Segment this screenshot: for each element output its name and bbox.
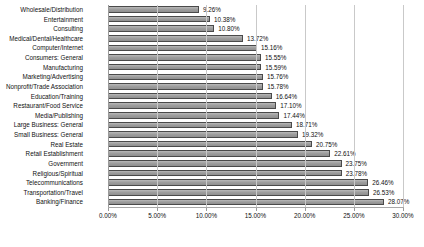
- category-label: Marketing/Advertising: [0, 72, 83, 82]
- bar: [108, 131, 298, 138]
- gridline-30.00%: [403, 5, 404, 207]
- x-tick-mark: [403, 208, 404, 211]
- category-label: Consulting: [0, 24, 83, 34]
- x-tick-mark: [305, 208, 306, 211]
- value-label: 15.55%: [265, 53, 286, 63]
- gridline-10.00%: [206, 5, 207, 207]
- bar: [108, 83, 263, 90]
- value-label: 16.64%: [276, 92, 297, 102]
- bar: [108, 54, 261, 61]
- bar: [108, 93, 272, 100]
- category-label: Entertainment: [0, 15, 83, 25]
- bar: [108, 122, 292, 129]
- category-label: Transportation/Travel: [0, 188, 83, 198]
- value-label: 15.78%: [267, 82, 288, 92]
- x-tick-mark: [108, 208, 109, 211]
- bar: [108, 141, 312, 148]
- value-label: 26.53%: [373, 188, 394, 198]
- x-tick-mark: [354, 208, 355, 211]
- x-tick-label: 30.00%: [392, 212, 413, 219]
- x-tick-label: 15.00%: [245, 212, 266, 219]
- bar-chart: Wholesale/Distribution9.26%Entertainment…: [0, 0, 424, 247]
- bar: [108, 6, 199, 13]
- value-label: 26.46%: [372, 178, 393, 188]
- bar: [108, 64, 261, 71]
- value-label: 10.38%: [214, 15, 235, 25]
- category-label: Media/Publishing: [0, 111, 83, 121]
- gridline-20.00%: [305, 5, 306, 207]
- category-label: Telecommunications: [0, 178, 83, 188]
- value-label: 18.71%: [296, 120, 317, 130]
- value-label: 15.76%: [267, 72, 288, 82]
- value-label: 20.75%: [316, 140, 337, 150]
- x-tick-mark: [157, 208, 158, 211]
- value-label: 23.78%: [346, 169, 367, 179]
- bar: [108, 179, 368, 186]
- bar: [108, 45, 257, 52]
- category-label: Medical/Dental/Healthcare: [0, 34, 83, 44]
- gridline-25.00%: [354, 5, 355, 207]
- category-label: Real Estate: [0, 140, 83, 150]
- bar: [108, 35, 243, 42]
- value-label: 22.61%: [334, 149, 355, 159]
- x-tick-label: 20.00%: [294, 212, 315, 219]
- x-tick-mark: [206, 208, 207, 211]
- x-tick-label: 25.00%: [343, 212, 364, 219]
- value-label: 10.80%: [218, 24, 239, 34]
- bar: [108, 199, 384, 206]
- value-label: 13.72%: [247, 34, 268, 44]
- category-label: Government: [0, 159, 83, 169]
- category-label: Large Business: General: [0, 120, 83, 130]
- category-label: Small Business: General: [0, 130, 83, 140]
- category-label: Banking/Finance: [0, 197, 83, 207]
- x-tick-label: 5.00%: [148, 212, 166, 219]
- bar: [108, 170, 342, 177]
- value-label: 28.07%: [388, 197, 409, 207]
- gridline-0.00%: [108, 5, 109, 207]
- bar: [108, 160, 342, 167]
- category-label: Nonprofit/Trade Association: [0, 82, 83, 92]
- bar: [108, 102, 276, 109]
- value-label: 23.75%: [346, 159, 367, 169]
- gridline-5.00%: [157, 5, 158, 207]
- x-tick-mark: [256, 208, 257, 211]
- bar: [108, 16, 210, 23]
- category-label: Retail Establishment: [0, 149, 83, 159]
- bar: [108, 74, 263, 81]
- category-label: Religious/Spiritual: [0, 169, 83, 179]
- bar: [108, 150, 330, 157]
- bar: [108, 112, 279, 119]
- category-label: Education/Training: [0, 92, 83, 102]
- x-tick-label: 0.00%: [99, 212, 117, 219]
- bar: [108, 25, 214, 32]
- category-label: Manufacturing: [0, 63, 83, 73]
- value-label: 17.10%: [280, 101, 301, 111]
- bar: [108, 189, 369, 196]
- category-label: Wholesale/Distribution: [0, 5, 83, 15]
- category-label: Consumers: General: [0, 53, 83, 63]
- value-label: 15.59%: [265, 63, 286, 73]
- category-label: Restaurant/Food Service: [0, 101, 83, 111]
- gridline-15.00%: [256, 5, 257, 207]
- category-label: Computer/Internet: [0, 43, 83, 53]
- value-label: 15.16%: [261, 43, 282, 53]
- value-label: 17.44%: [283, 111, 304, 121]
- x-tick-label: 10.00%: [196, 212, 217, 219]
